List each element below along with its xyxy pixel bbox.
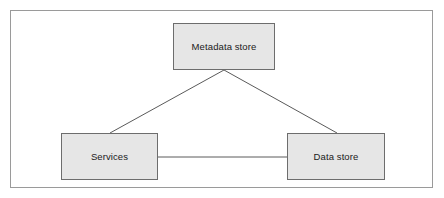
node-data-store[interactable]: Data store [287,133,385,180]
node-services[interactable]: Services [61,133,158,180]
node-metadata-store-label: Metadata store [192,42,257,52]
diagram-canvas: Metadata store Services Data store [0,0,444,198]
node-metadata-store[interactable]: Metadata store [173,23,275,70]
node-data-store-label: Data store [314,152,359,162]
node-services-label: Services [91,152,128,162]
